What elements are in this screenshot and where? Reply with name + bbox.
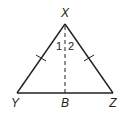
angle-label-1: 1 xyxy=(56,41,62,52)
vertex-label-y: Y xyxy=(11,97,19,109)
congruence-tick-xy xyxy=(36,55,46,61)
vertex-label-b: B xyxy=(61,97,69,109)
vertex-label-z: Z xyxy=(109,97,116,109)
vertex-label-x: X xyxy=(61,7,69,19)
isosceles-triangle-figure: X Y B Z 1 2 xyxy=(0,0,124,117)
congruence-tick-xz xyxy=(84,55,94,61)
angle-label-2: 2 xyxy=(68,41,74,52)
